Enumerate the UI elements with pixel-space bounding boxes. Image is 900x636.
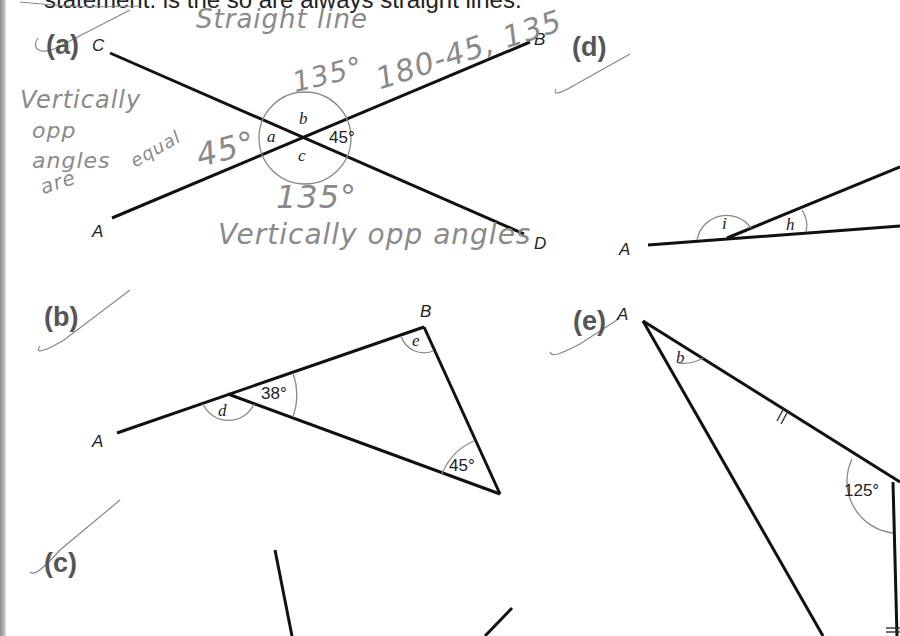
- equal-side-tick-marks: [777, 408, 900, 632]
- angle-c-label: c: [298, 146, 306, 166]
- part-c-label: (c): [44, 548, 77, 579]
- figure-b-lines: [117, 327, 500, 494]
- angle-45-label: 45°: [329, 128, 355, 148]
- part-e-label: (e): [573, 306, 606, 337]
- figure-c-lines: [275, 550, 512, 636]
- angle-38-label: 38°: [261, 384, 287, 404]
- angle-i-label: i: [722, 214, 727, 234]
- angle-125-label: 125°: [844, 481, 879, 501]
- worksheet-page: statement. is the so are always straight…: [0, 0, 900, 636]
- angle-b-label: b: [299, 109, 308, 129]
- angle-e-label: e: [412, 331, 420, 351]
- angle-e-b-label: b: [676, 348, 685, 368]
- part-a-label: (a): [46, 30, 79, 61]
- handwritten-vertically-opp-angles: Vertically opp angles: [218, 218, 531, 251]
- point-e-a-label: A: [617, 305, 628, 325]
- angle-h-label: h: [786, 215, 795, 235]
- part-b-label: (b): [44, 302, 78, 333]
- figure-e-lines: [643, 321, 900, 636]
- figure-e-arcs: [679, 358, 893, 533]
- part-d-label: (d): [572, 32, 606, 63]
- point-b-a-label: A: [92, 432, 103, 452]
- handwritten-straight-line: Straight line: [196, 4, 368, 34]
- point-a-label: A: [92, 222, 103, 242]
- angle-45-b-label: 45°: [449, 456, 475, 476]
- handwritten-opp: opp: [32, 118, 76, 143]
- point-d-a-label: A: [619, 240, 630, 260]
- figure-d-lines: [648, 167, 900, 245]
- point-b-b-label: B: [420, 302, 431, 322]
- angle-a-label: a: [267, 127, 276, 147]
- handwritten-c-value: 135°: [276, 178, 357, 216]
- handwritten-vertically: Vertically: [20, 86, 141, 114]
- point-d-label: D: [534, 234, 546, 254]
- point-c-label: C: [92, 36, 104, 56]
- angle-d-label: d: [218, 401, 227, 421]
